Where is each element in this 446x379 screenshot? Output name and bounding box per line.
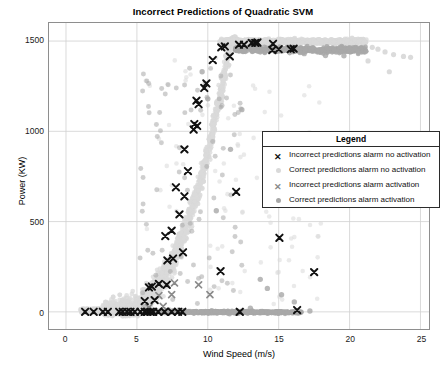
y-tick-label: 1500 <box>4 35 44 45</box>
legend[interactable]: Legend ✕Incorrect predictions alarm no a… <box>262 131 440 208</box>
legend-rows: ✕Incorrect predictions alarm no activati… <box>263 147 439 207</box>
legend-item[interactable]: ✕Incorrect predictions alarm activation <box>263 177 439 192</box>
y-tick-label: 0 <box>4 308 44 318</box>
legend-marker-dot-light-icon <box>267 162 289 178</box>
x-tick-label: 5 <box>116 334 156 344</box>
x-tick-label: 0 <box>45 334 85 344</box>
x-tick-label: 25 <box>401 334 441 344</box>
legend-marker-x-gray-icon: ✕ <box>267 177 289 193</box>
legend-item-label: Correct predictions alarm activation <box>289 195 414 204</box>
legend-item-label: Incorrect predictions alarm no activatio… <box>289 150 430 159</box>
legend-item-label: Correct predictions alarm no activation <box>289 165 426 174</box>
legend-item-label: Incorrect predictions alarm activation <box>289 180 419 189</box>
chart-figure: Incorrect Predictions of Quadratic SVM 0… <box>0 0 446 379</box>
legend-item[interactable]: Correct predictions alarm no activation <box>263 162 439 177</box>
x-tick-label: 20 <box>330 334 370 344</box>
y-axis-label: Power (KW) <box>17 111 27 251</box>
x-tick-label: 10 <box>188 334 228 344</box>
x-tick-label: 15 <box>259 334 299 344</box>
legend-marker-dot-gray-icon <box>267 192 289 208</box>
x-axis-label: Wind Speed (m/s) <box>48 349 430 359</box>
legend-title: Legend <box>263 132 439 147</box>
legend-marker-x-dark-icon: ✕ <box>267 147 289 163</box>
legend-item[interactable]: ✕Incorrect predictions alarm no activati… <box>263 147 439 162</box>
chart-title: Incorrect Predictions of Quadratic SVM <box>0 6 446 17</box>
legend-item[interactable]: Correct predictions alarm activation <box>263 192 439 207</box>
